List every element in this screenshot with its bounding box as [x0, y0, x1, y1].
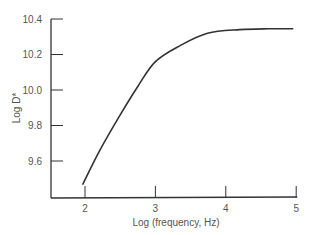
y-ticks: 9.69.810.010.210.4 [23, 14, 63, 167]
x-tick-label: 3 [153, 203, 159, 214]
x-ticks: 2345 [82, 186, 299, 214]
y-axis-title: Log D* [11, 93, 22, 124]
x-tick-label: 4 [223, 203, 229, 214]
y-tick-label: 10.2 [23, 49, 43, 60]
y-tick-label: 10.0 [23, 85, 43, 96]
x-tick-label: 2 [82, 203, 88, 214]
x-axis [51, 197, 297, 198]
chart: 9.69.810.010.210.4 2345 Log (frequency, … [0, 0, 313, 235]
series-line-log-d-star [83, 29, 293, 184]
x-tick-label: 5 [293, 203, 299, 214]
axes [51, 19, 297, 198]
y-tick-label: 9.8 [28, 120, 42, 131]
x-axis-title: Log (frequency, Hz) [132, 217, 219, 228]
y-tick-label: 10.4 [23, 14, 43, 25]
y-tick-label: 9.6 [28, 156, 42, 167]
series-layer [83, 29, 293, 184]
